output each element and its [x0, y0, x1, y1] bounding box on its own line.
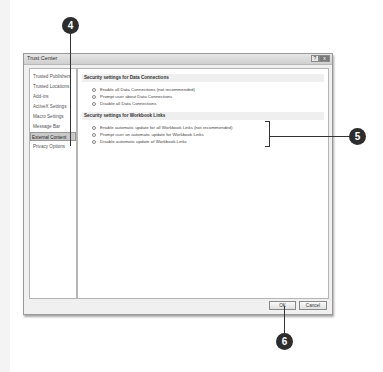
sidebar-item-message-bar[interactable]: Message Bar: [32, 122, 75, 131]
option-disable-data-connections[interactable]: Disable all Data Connections: [92, 101, 156, 107]
help-button[interactable]: ?: [311, 55, 319, 62]
callout-5-leader: [270, 136, 350, 137]
callout-5-bracket: [265, 121, 270, 147]
radio-selected-icon[interactable]: [92, 133, 96, 137]
radio-icon[interactable]: [92, 102, 96, 106]
radio-icon[interactable]: [92, 140, 96, 144]
callout-4-badge: 4: [62, 17, 79, 34]
sidebar-item-trusted-publishers[interactable]: Trusted Publishers: [32, 72, 75, 81]
radio-icon[interactable]: [92, 88, 96, 92]
callout-6-leader: [284, 306, 285, 334]
content-panel: Security settings for Data Connections E…: [77, 68, 329, 299]
sidebar-item-trusted-locations[interactable]: Trusted Locations: [32, 82, 75, 91]
page-margin: [0, 0, 10, 372]
sidebar-item-privacy-options[interactable]: Privacy Options: [32, 142, 75, 151]
callout-5-badge: 5: [349, 128, 366, 145]
close-button[interactable]: x: [319, 55, 330, 62]
dialog-title: Trust Center: [27, 55, 57, 61]
sidebar-item-activex-settings[interactable]: ActiveX Settings: [32, 102, 75, 111]
cancel-button[interactable]: Cancel: [299, 301, 327, 310]
option-disable-workbook-links[interactable]: Disable automatic update of Workbook Lin…: [92, 139, 187, 145]
option-prompt-data-connections[interactable]: Prompt user about Data Connections: [92, 94, 172, 100]
option-prompt-workbook-links[interactable]: Prompt user on automatic update for Work…: [92, 132, 204, 138]
sidebar-item-add-ins[interactable]: Add-ins: [32, 92, 75, 101]
callout-4-leader: [70, 33, 71, 146]
option-enable-workbook-links[interactable]: Enable automatic update for all Workbook…: [92, 125, 232, 131]
sidebar-item-macro-settings[interactable]: Macro Settings: [32, 112, 75, 121]
section-heading-data-connections: Security settings for Data Connections: [82, 74, 324, 82]
section-heading-workbook-links: Security settings for Workbook Links: [82, 112, 324, 120]
option-enable-data-connections[interactable]: Enable all Data Connections (not recomme…: [92, 87, 195, 93]
callout-6-badge: 6: [276, 333, 293, 350]
ok-button[interactable]: OK: [269, 301, 296, 310]
radio-icon[interactable]: [92, 126, 96, 130]
radio-selected-icon[interactable]: [92, 95, 96, 99]
